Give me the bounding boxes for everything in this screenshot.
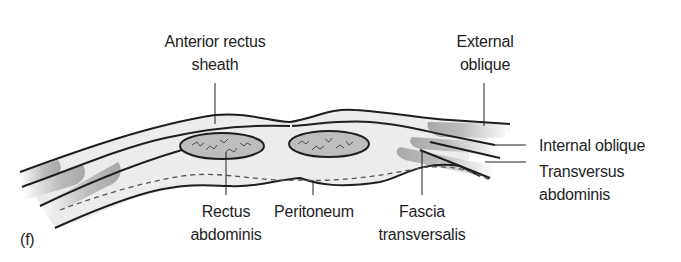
panel-label: (f) <box>20 228 35 251</box>
rectus-abdominis-right <box>289 131 369 157</box>
label-rectus-abdominis: Rectus abdominis <box>176 200 276 246</box>
label-internal-oblique: Internal oblique <box>539 134 645 157</box>
label-peritoneum: Peritoneum <box>268 200 360 223</box>
abdominal-wall-diagram: Anterior rectus sheath External oblique … <box>0 0 681 262</box>
label-transversus-abdominis: Transversus abdominis <box>539 160 624 206</box>
label-external-oblique: External oblique <box>440 30 530 76</box>
label-fascia-transversalis: Fascia transversalis <box>372 200 472 246</box>
rectus-abdominis-left <box>180 133 264 159</box>
label-anterior-rectus-sheath: Anterior rectus sheath <box>150 30 280 76</box>
